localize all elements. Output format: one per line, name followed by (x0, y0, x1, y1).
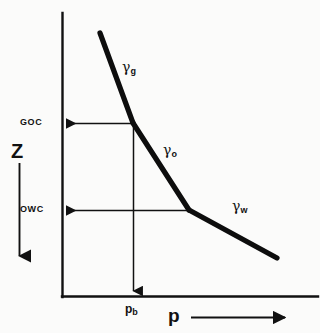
gamma-g-curve-label: γg (122, 60, 136, 74)
z-axis-title: Z (11, 141, 23, 161)
axis-frame (62, 13, 318, 297)
gamma-w-curve-label: γw (232, 199, 247, 213)
owc-axis-label: OWC (20, 205, 44, 214)
pressure-depth-figure: GOC OWC γg γo γw Z p pb (0, 0, 320, 333)
gamma-g-subscript: g (130, 66, 136, 76)
gamma-o-subscript: o (171, 149, 177, 159)
plot-canvas (0, 0, 320, 333)
gamma-w-subscript: w (240, 205, 247, 215)
water-gradient-segment (189, 210, 277, 258)
goc-axis-label: GOC (20, 118, 42, 127)
pb-axis-label: pb (125, 303, 138, 315)
pb-subscript: b (132, 307, 138, 317)
p-axis-title: p (168, 306, 180, 325)
gas-gradient-segment (100, 33, 133, 123)
gamma-o-curve-label: γo (163, 143, 177, 157)
oil-gradient-segment (133, 123, 189, 210)
